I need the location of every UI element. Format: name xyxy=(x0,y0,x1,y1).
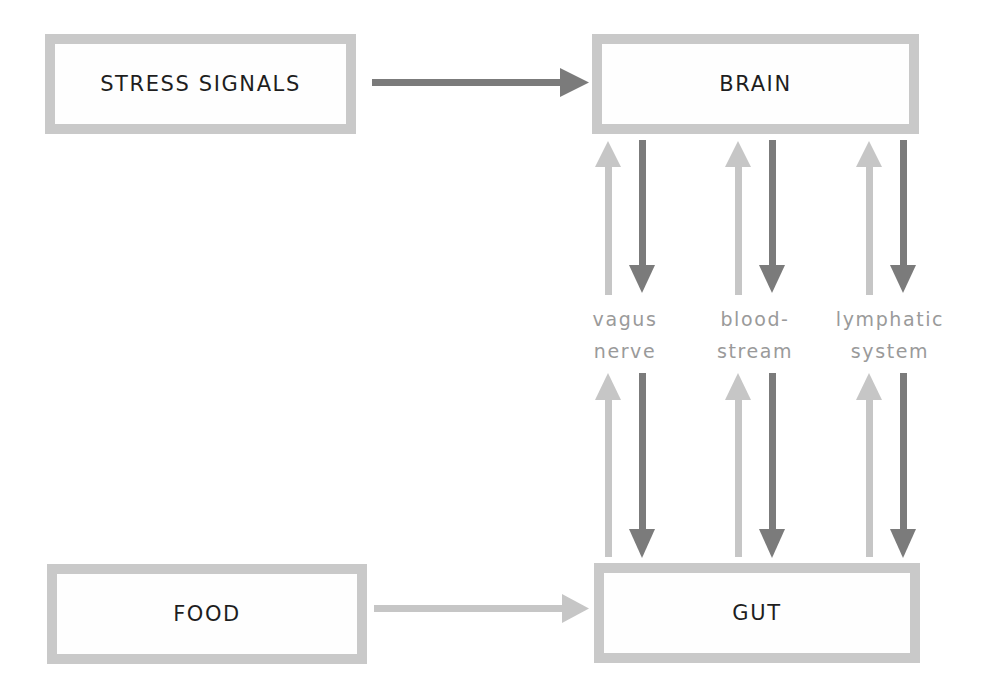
arrow-lymphatic-up-upper xyxy=(856,141,882,295)
arrow-vagus-up-lower xyxy=(595,373,621,557)
arrow-stress-to-brain xyxy=(372,68,589,97)
arrow-bloodstream-up-upper xyxy=(725,141,751,295)
arrow-bloodstream-up-lower xyxy=(725,373,751,557)
channel-label-bloodstream: blood- stream xyxy=(705,303,805,367)
arrow-vagus-up-upper xyxy=(595,141,621,295)
arrow-food-to-gut xyxy=(374,594,589,623)
arrow-lymphatic-down-upper xyxy=(890,140,916,293)
channel-label-line1: vagus xyxy=(580,303,670,335)
channel-label-line2: stream xyxy=(705,335,805,367)
channel-label-vagus-nerve: vagus nerve xyxy=(580,303,670,367)
channel-label-line2: system xyxy=(820,335,960,367)
arrow-bloodstream-down-upper xyxy=(759,140,785,293)
channel-label-lymphatic-system: lymphatic system xyxy=(820,303,960,367)
channel-label-line1: lymphatic xyxy=(820,303,960,335)
channel-label-line1: blood- xyxy=(705,303,805,335)
arrow-lymphatic-up-lower xyxy=(856,373,882,557)
arrow-vagus-down-upper xyxy=(629,140,655,293)
arrow-lymphatic-down-lower xyxy=(890,373,916,558)
arrow-vagus-down-lower xyxy=(629,373,655,558)
channel-label-line2: nerve xyxy=(580,335,670,367)
arrow-bloodstream-down-lower xyxy=(759,373,785,558)
